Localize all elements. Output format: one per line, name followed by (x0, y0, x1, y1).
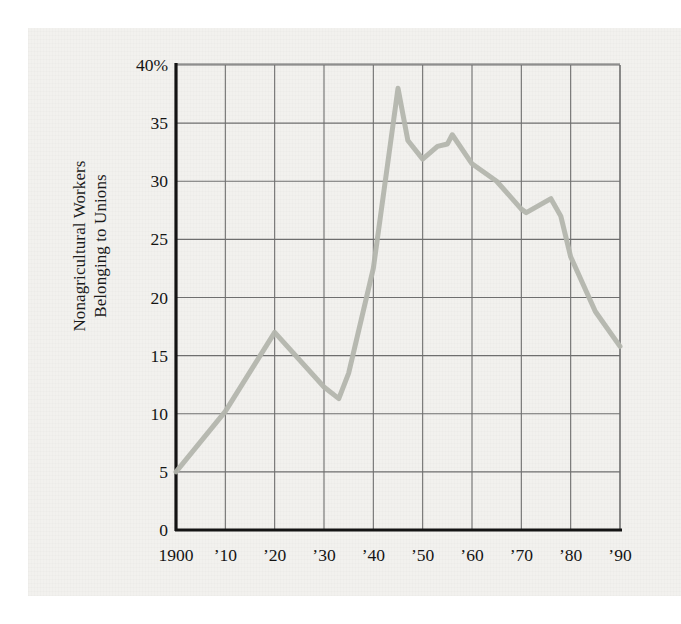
union-membership-line-chart: Nonagricultural Workers Belonging to Uni… (0, 0, 681, 624)
plot-area (0, 0, 681, 624)
data-line (176, 88, 620, 472)
horizontal-gridlines (176, 65, 620, 472)
union-membership-line (176, 88, 620, 472)
